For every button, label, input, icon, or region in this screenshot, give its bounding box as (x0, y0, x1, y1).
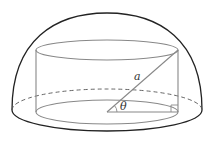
label-a: a (134, 70, 141, 83)
angle-theta-arc (115, 106, 118, 113)
diagonal-a-line (107, 50, 178, 112)
hemisphere-dome (12, 13, 202, 110)
label-theta: θ (120, 100, 127, 113)
cylinder-top-ellipse (36, 40, 178, 60)
diagram-canvas: a θ (0, 0, 213, 143)
hemisphere-base-front (12, 110, 202, 131)
hemisphere-cylinder-figure: a θ (0, 0, 213, 143)
